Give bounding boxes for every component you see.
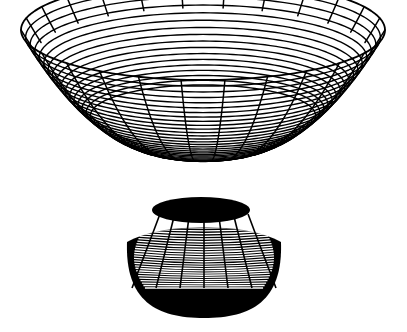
inner-cavity-ellipse	[152, 197, 250, 223]
inner-cavity-group	[152, 197, 250, 223]
wireframe-surface-plot	[0, 0, 407, 332]
figure-container	[0, 0, 407, 332]
